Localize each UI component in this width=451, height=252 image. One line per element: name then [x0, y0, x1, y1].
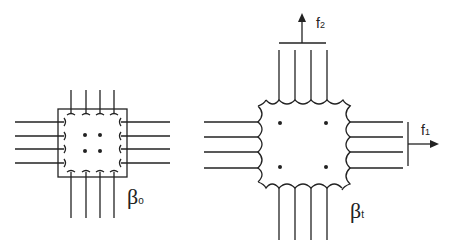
force-subscript: 2 [320, 20, 325, 30]
arrow-right-icon [430, 140, 439, 148]
left-dots [83, 133, 102, 153]
label-beta-t: βt [350, 198, 364, 224]
arrowheads [298, 13, 439, 148]
left-panel [15, 90, 170, 218]
label-beta-o: βo [127, 184, 144, 210]
arrow-up-icon [298, 13, 306, 22]
label-f2: f2 [316, 14, 325, 32]
beta-symbol: β [127, 184, 138, 209]
beta-symbol: β [350, 198, 361, 223]
beta-subscript: t [361, 209, 364, 220]
right-dots [278, 121, 328, 169]
left-box [58, 109, 127, 177]
label-f1: f1 [421, 121, 430, 139]
left-top-fibers [67, 90, 118, 115]
force-subscript: 1 [425, 127, 430, 137]
beta-subscript: o [138, 195, 144, 206]
diagram-canvas [0, 0, 451, 252]
right-panel [204, 20, 432, 240]
right-scalloped-box [258, 100, 351, 190]
